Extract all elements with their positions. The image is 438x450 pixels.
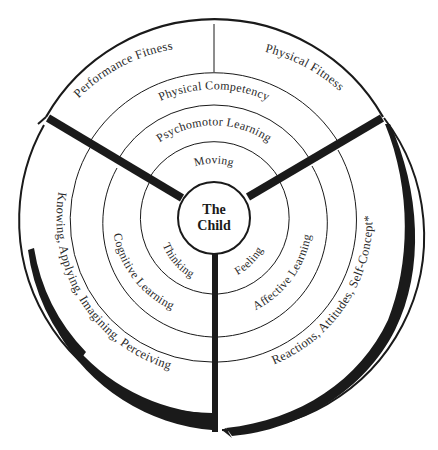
- label-psychomotor-learning: Psychomotor Learning: [154, 114, 275, 145]
- label-affective-learning: Affective Learning: [250, 233, 314, 313]
- label-physical-fitness: Physical Fitness: [264, 41, 347, 94]
- label-physical-competency: Physical Competency: [156, 78, 272, 103]
- center-label-line2: Child: [197, 218, 231, 233]
- child-development-diagram: The Child Moving Psychomotor Learning Ph…: [0, 0, 438, 450]
- right-section: [218, 118, 424, 438]
- label-feeling: Feeling: [232, 244, 265, 277]
- label-moving: Moving: [193, 153, 236, 169]
- center-circle: The Child: [178, 182, 250, 254]
- center-label-line1: The: [202, 202, 225, 217]
